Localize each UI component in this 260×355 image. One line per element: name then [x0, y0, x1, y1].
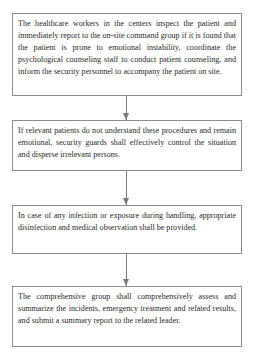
flow-step-1-text: The healthcare workers in the centers in…: [18, 19, 236, 76]
arrow-down-icon: [126, 254, 127, 286]
flow-step-4: The comprehensive group shall comprehens…: [12, 286, 242, 347]
flow-step-1: The healthcare workers in the centers in…: [12, 13, 242, 96]
flow-step-3-text: In case of any infection or exposure dur…: [18, 211, 236, 232]
arrow-down-icon: [126, 171, 127, 205]
flow-step-2-text: If relevant patients do not understand t…: [18, 126, 236, 159]
flow-step-2: If relevant patients do not understand t…: [12, 120, 242, 171]
arrow-down-icon: [126, 96, 127, 120]
flow-step-3: In case of any infection or exposure dur…: [12, 205, 242, 254]
flow-step-4-text: The comprehensive group shall comprehens…: [18, 292, 236, 325]
